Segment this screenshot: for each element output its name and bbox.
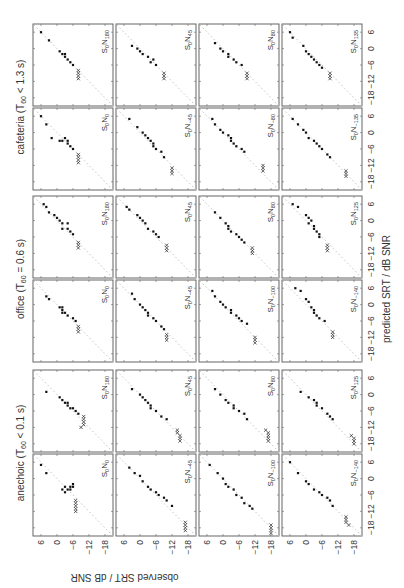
data-point xyxy=(326,413,328,415)
data-point xyxy=(59,306,61,308)
data-point xyxy=(329,156,331,158)
y-tick-label: −18 xyxy=(183,540,193,555)
scatter-panel-office-s0n-100: S0N−100 xyxy=(199,280,279,362)
data-point xyxy=(128,467,130,469)
data-point xyxy=(155,410,157,412)
scatter-panel-office-s0n45: S0N45 xyxy=(116,196,196,278)
x-tick-label: −12 xyxy=(366,420,376,435)
data-point xyxy=(126,206,128,208)
data-point xyxy=(69,486,71,488)
data-point xyxy=(227,402,229,404)
data-point xyxy=(64,56,66,58)
y-tick-label: 6 xyxy=(119,540,129,545)
data-point xyxy=(59,50,61,52)
data-point xyxy=(61,312,63,314)
data-point xyxy=(313,399,315,401)
data-point xyxy=(222,478,224,480)
data-point xyxy=(171,505,173,507)
data-point xyxy=(48,39,50,41)
data-point xyxy=(67,58,69,60)
y-axis-label: observed SRT / dB SNR xyxy=(70,572,178,583)
data-point xyxy=(152,145,154,147)
data-point xyxy=(134,298,136,300)
data-point xyxy=(69,61,71,63)
x-tick-label: 0 xyxy=(366,46,376,51)
data-point xyxy=(155,233,157,235)
x-tick-label: −6 xyxy=(366,490,376,500)
y-tick-label: −6 xyxy=(234,540,244,550)
data-point xyxy=(235,314,237,316)
data-point xyxy=(128,118,130,120)
data-point xyxy=(332,505,334,507)
x-tick-label: 6 xyxy=(366,202,376,207)
data-point xyxy=(59,140,61,142)
data-point xyxy=(45,123,47,125)
data-point xyxy=(72,317,74,319)
data-point xyxy=(300,391,302,393)
scatter-panel-cafeteria-s0n45: S0N45 xyxy=(116,24,196,106)
data-point xyxy=(308,53,310,55)
data-point xyxy=(158,494,160,496)
data-point xyxy=(294,287,296,289)
data-point xyxy=(225,399,227,401)
data-point xyxy=(166,499,168,501)
y-tick-label: −12 xyxy=(250,540,260,555)
data-point xyxy=(227,228,229,230)
data-point xyxy=(235,145,237,147)
data-point xyxy=(61,306,63,308)
scatter-panel-cafeteria-s0n-135: S0N−135 xyxy=(282,108,362,190)
data-point xyxy=(142,396,144,398)
x-tick-label: −6 xyxy=(366,406,376,416)
data-point xyxy=(289,31,291,33)
data-point xyxy=(61,140,63,142)
data-point xyxy=(243,151,245,153)
x-tick-label: −6 xyxy=(366,60,376,70)
data-point xyxy=(144,134,146,136)
data-point xyxy=(214,388,216,390)
data-point xyxy=(316,314,318,316)
data-point xyxy=(305,214,307,216)
data-point xyxy=(166,418,168,420)
scatter-panel-anechoic-s0n0: S0N0 xyxy=(33,454,113,536)
data-point xyxy=(321,67,323,69)
data-point xyxy=(238,317,240,319)
data-point xyxy=(246,323,248,325)
x-tick-label: −18 xyxy=(366,174,376,189)
data-point xyxy=(152,58,154,60)
x-tick-label: −12 xyxy=(366,158,376,173)
room-label-anechoic: anechoic (T60 < 0.1 s) xyxy=(15,405,27,501)
scatter-panel-anechoic-s0n180: S0N180 xyxy=(33,370,113,452)
data-point xyxy=(316,404,318,406)
data-point xyxy=(150,488,152,490)
data-point xyxy=(64,137,66,139)
data-point xyxy=(43,203,45,205)
data-point xyxy=(316,402,318,404)
y-tick-label: 6 xyxy=(36,540,46,545)
data-point xyxy=(150,61,152,63)
data-point xyxy=(163,497,165,499)
data-point xyxy=(160,325,162,327)
data-point xyxy=(227,53,229,55)
data-point xyxy=(289,461,291,463)
scatter-panel-cafeteria-s0n0: S0N0 xyxy=(33,108,113,190)
data-point xyxy=(214,295,216,297)
scatter-panel-anechoic-s0n-100: S0N−100 xyxy=(199,454,279,536)
data-point xyxy=(209,464,211,466)
data-point xyxy=(147,402,149,404)
data-point xyxy=(64,53,66,55)
data-point xyxy=(61,53,63,55)
data-point xyxy=(160,151,162,153)
data-point xyxy=(152,142,154,144)
data-point xyxy=(297,123,299,125)
data-point xyxy=(222,304,224,306)
data-point xyxy=(150,140,152,142)
data-point xyxy=(139,394,141,396)
data-point xyxy=(53,214,55,216)
data-point xyxy=(329,499,331,501)
data-point xyxy=(40,464,42,466)
data-point xyxy=(136,126,138,128)
data-point xyxy=(144,309,146,311)
scatter-panel-anechoic-s0n125: S0N125 xyxy=(282,370,362,452)
data-point xyxy=(241,497,243,499)
data-point xyxy=(61,399,63,401)
